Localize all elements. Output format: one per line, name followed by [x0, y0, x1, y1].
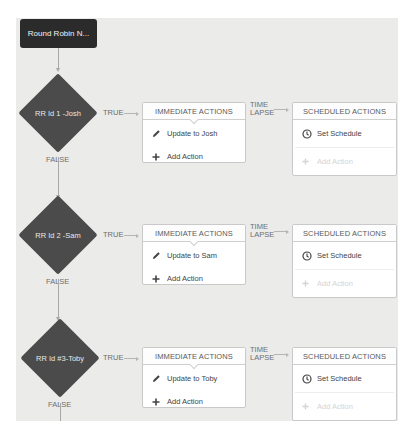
time-lapse-connector: [274, 109, 286, 110]
criteria-label: RR Id 2 -Sam: [19, 196, 97, 274]
immediate-actions-box: IMMEDIATE ACTIONS Update to Toby Add Act…: [142, 347, 246, 408]
immediate-action-label: Update to Sam: [167, 251, 217, 260]
clock-icon: [302, 129, 313, 139]
connector-arrow: [56, 68, 60, 72]
immediate-action-label: Update to Toby: [167, 374, 217, 383]
pencil-icon: [152, 129, 163, 138]
true-connector: [124, 235, 136, 236]
immediate-actions-title: IMMEDIATE ACTIONS: [155, 352, 233, 361]
immediate-action-item[interactable]: Update to Toby: [143, 368, 245, 389]
scheduled-add-action-label: Add Action: [317, 279, 353, 288]
scheduled-actions-title: SCHEDULED ACTIONS: [303, 107, 386, 116]
immediate-actions-title: IMMEDIATE ACTIONS: [155, 107, 233, 116]
scheduled-actions-box: SCHEDULED ACTIONS Set Schedule Add Actio…: [292, 224, 397, 298]
add-action-button[interactable]: Add Action: [143, 391, 245, 412]
false-connector: [58, 279, 59, 319]
immediate-actions-header: IMMEDIATE ACTIONS: [143, 103, 245, 120]
time-lapse-line2: LAPSE: [250, 109, 274, 117]
time-lapse-label: TIME LAPSE: [250, 346, 274, 362]
pencil-icon: [152, 251, 163, 260]
start-node[interactable]: Round Robin N...: [20, 19, 97, 48]
clock-icon: [302, 251, 313, 261]
scheduled-actions-title: SCHEDULED ACTIONS: [303, 352, 386, 361]
scheduled-add-action-button: Add Action: [293, 148, 396, 174]
immediate-actions-header: IMMEDIATE ACTIONS: [143, 348, 245, 365]
criteria-label: RR Id #3-Toby: [21, 319, 99, 397]
scheduled-actions-header: SCHEDULED ACTIONS: [293, 103, 396, 120]
immediate-actions-header: IMMEDIATE ACTIONS: [143, 225, 245, 242]
true-label: TRUE: [103, 354, 123, 362]
plus-icon: [302, 403, 313, 410]
set-schedule-label: Set Schedule: [317, 129, 362, 138]
plus-icon: [152, 153, 163, 161]
scheduled-actions-box: SCHEDULED ACTIONS Set Schedule Add Actio…: [292, 347, 397, 421]
time-lapse-arrow: [286, 230, 289, 234]
scheduled-actions-box: SCHEDULED ACTIONS Set Schedule Add Actio…: [292, 102, 397, 176]
immediate-actions-box: IMMEDIATE ACTIONS Update to Sam Add Acti…: [142, 224, 246, 285]
scheduled-add-action-label: Add Action: [317, 402, 353, 411]
scheduled-add-action-button: Add Action: [293, 270, 396, 296]
criteria-node[interactable]: RR Id 1 -Josh: [19, 74, 97, 152]
criteria-node[interactable]: RR Id #3-Toby: [21, 319, 99, 397]
plus-icon: [302, 280, 313, 287]
immediate-action-label: Update to Josh: [167, 129, 217, 138]
time-lapse-connector: [274, 354, 286, 355]
scheduled-add-action-button: Add Action: [293, 393, 396, 419]
criteria-node[interactable]: RR Id 2 -Sam: [19, 196, 97, 274]
scheduled-actions-header: SCHEDULED ACTIONS: [293, 348, 396, 365]
time-lapse-arrow: [286, 353, 289, 357]
true-arrow: [136, 357, 139, 361]
add-action-label: Add Action: [167, 397, 203, 406]
set-schedule-button[interactable]: Set Schedule: [293, 365, 396, 392]
scheduled-actions-title: SCHEDULED ACTIONS: [303, 229, 386, 238]
time-lapse-label: TIME LAPSE: [250, 223, 274, 239]
scheduled-actions-header: SCHEDULED ACTIONS: [293, 225, 396, 242]
set-schedule-label: Set Schedule: [317, 251, 362, 260]
set-schedule-button[interactable]: Set Schedule: [293, 120, 396, 147]
true-label: TRUE: [103, 231, 123, 239]
set-schedule-button[interactable]: Set Schedule: [293, 242, 396, 269]
criteria-label: RR Id 1 -Josh: [19, 74, 97, 152]
add-action-label: Add Action: [167, 152, 203, 161]
scheduled-add-action-label: Add Action: [317, 157, 353, 166]
time-lapse-line2: LAPSE: [250, 354, 274, 362]
time-lapse-line2: LAPSE: [250, 231, 274, 239]
true-arrow: [136, 112, 139, 116]
time-lapse-connector: [274, 231, 286, 232]
true-connector: [124, 113, 136, 114]
time-lapse-arrow: [286, 108, 289, 112]
immediate-actions-title: IMMEDIATE ACTIONS: [155, 229, 233, 238]
set-schedule-label: Set Schedule: [317, 374, 362, 383]
plus-icon: [302, 158, 313, 165]
true-connector: [124, 358, 136, 359]
true-label: TRUE: [103, 109, 123, 117]
clock-icon: [302, 374, 313, 384]
true-arrow: [136, 234, 139, 238]
immediate-action-item[interactable]: Update to Sam: [143, 245, 245, 266]
plus-icon: [152, 275, 163, 283]
add-action-button[interactable]: Add Action: [143, 146, 245, 167]
connector-start: [58, 48, 59, 70]
false-connector: [60, 403, 61, 421]
add-action-label: Add Action: [167, 274, 203, 283]
plus-icon: [152, 398, 163, 406]
false-connector: [58, 157, 59, 197]
immediate-action-item[interactable]: Update to Josh: [143, 123, 245, 144]
pencil-icon: [152, 374, 163, 383]
add-action-button[interactable]: Add Action: [143, 268, 245, 289]
immediate-actions-box: IMMEDIATE ACTIONS Update to Josh Add Act…: [142, 102, 246, 163]
start-node-label: Round Robin N...: [28, 29, 89, 38]
time-lapse-label: TIME LAPSE: [250, 101, 274, 117]
